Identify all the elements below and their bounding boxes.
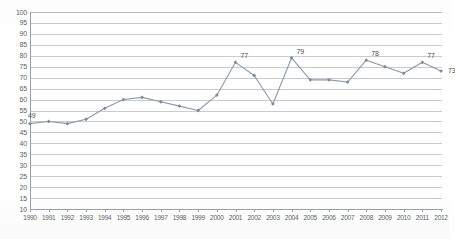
data-label-2008: 78 bbox=[371, 50, 378, 57]
x-axis-tick-labels: 1990199119921993199419951996199719981999… bbox=[30, 214, 442, 228]
data-label-2001: 77 bbox=[241, 52, 248, 59]
data-label-2012: 73 bbox=[448, 67, 455, 74]
x-tick-label-2012: 2012 bbox=[428, 214, 454, 222]
data-label-1990: 49 bbox=[28, 112, 35, 119]
data-label-2004: 79 bbox=[297, 48, 304, 55]
data-label-2011: 77 bbox=[427, 52, 434, 59]
